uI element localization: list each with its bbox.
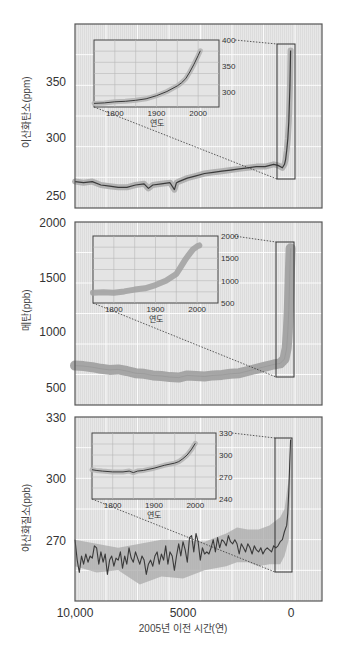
x-tick: 0 [288,606,295,620]
inset-y-tick: 350 [222,62,236,71]
nitrous-oxide-panel: 180019002000연도240270300330 [75,417,322,601]
x-axis: 10,000 5000 0 2005년 이전 시간(연) [57,606,295,634]
y-tick: 1500 [39,271,66,285]
y-tick: 2000 [39,216,66,230]
inset-y-tick: 330 [219,429,233,438]
inset-x-tick: 2000 [188,305,206,314]
inset-y-tick: 270 [219,473,233,482]
nitrous-oxide-y-axis-title: 아산화질소(ppb) [21,484,32,552]
co2-y-ticks: 350 300 250 [46,75,66,203]
inset-x-axis-title: 연도 [150,119,164,128]
inset-x-tick: 2000 [186,501,204,510]
inset-y-tick: 300 [219,451,233,460]
inset-y-tick: 240 [219,495,233,504]
inset-x-axis-title: 연도 [149,315,163,324]
inset-y-tick: 300 [222,88,236,97]
inset-x-axis-title: 연도 [147,511,161,520]
methane-y-axis-title: 메탄(ppb) [21,289,32,330]
inset-y-tick: 400 [222,36,236,45]
co2-y-axis-title: 이산화탄소(ppm) [21,76,32,147]
inset-x-tick: 2000 [189,109,207,118]
y-tick: 300 [46,131,66,145]
inset-x-tick: 1800 [104,501,122,510]
methane-y-ticks: 2000 1500 1000 500 [39,216,66,395]
y-tick: 1000 [39,325,66,339]
y-tick: 250 [46,189,66,203]
x-tick: 10,000 [57,606,94,620]
inset-y-tick: 1000 [221,277,239,286]
figure: 180019002000연도300350400 180019002000연도50… [0,0,341,649]
y-tick: 500 [46,381,66,395]
inset-y-tick: 500 [221,299,235,308]
inset-x-tick: 1900 [148,109,166,118]
methane-panel: 180019002000연도500100015002000 [75,222,322,405]
nitrous-oxide-y-ticks: 330 300 270 [46,411,66,548]
inset-x-tick: 1800 [105,305,123,314]
y-tick: 300 [46,472,66,486]
co2-panel: 180019002000연도300350400 [75,24,322,208]
x-tick: 5000 [170,606,197,620]
inset-y-tick: 1500 [221,254,239,263]
y-tick: 270 [46,534,66,548]
inset-x-tick: 1800 [106,109,124,118]
y-tick: 330 [46,411,66,425]
y-tick: 350 [46,75,66,89]
inset-y-tick: 2000 [221,232,239,241]
x-axis-title: 2005년 이전 시간(연) [139,623,227,634]
inset-x-tick: 1900 [145,501,163,510]
inset-x-tick: 1900 [147,305,165,314]
